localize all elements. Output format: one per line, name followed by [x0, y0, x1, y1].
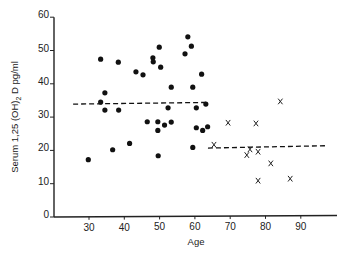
cross-marker [256, 178, 260, 184]
dot-marker [190, 145, 195, 150]
axes: 010203040506030405060708090 [38, 9, 337, 233]
y-tick-label: 30 [38, 109, 50, 120]
cross-marker [269, 161, 273, 167]
cross-marker [245, 152, 249, 158]
dot-marker [102, 108, 107, 113]
dot-marker [98, 57, 103, 62]
y-axis-title-prefix: Serum 1,25 (OH) [9, 100, 20, 172]
mean-lines [73, 102, 325, 148]
dot-marker [155, 128, 160, 133]
dot-marker [116, 60, 121, 65]
dot-marker [140, 72, 145, 77]
cross-marker [288, 176, 292, 182]
cross-marker [226, 120, 230, 126]
x-tick-label: 30 [83, 222, 95, 233]
dot-marker [116, 108, 121, 113]
dot-marker [203, 102, 208, 107]
cross-marker [212, 142, 216, 148]
y-tick-label: 60 [38, 9, 50, 20]
cross-marker [278, 99, 282, 105]
cross-marker [256, 149, 260, 155]
y-tick-label: 20 [38, 142, 50, 153]
dot-marker [189, 44, 194, 49]
dot-marker [185, 34, 190, 39]
dot-marker [190, 85, 195, 90]
y-axis-title: Serum 1,25 (OH)2 D pg/ml [9, 61, 22, 173]
cross-marker [254, 121, 258, 127]
dot-marker [162, 122, 167, 127]
dot-marker [169, 85, 174, 90]
x-tick-label: 70 [225, 221, 237, 232]
dot-marker [155, 119, 160, 124]
dot-marker [158, 65, 163, 70]
y-tick-label: 40 [38, 76, 50, 87]
x-tick-label: 50 [154, 221, 166, 232]
data-points [86, 34, 293, 183]
dot-marker [200, 128, 205, 133]
dot-marker [194, 125, 199, 130]
dot-marker [110, 147, 115, 152]
scatter-chart: 010203040506030405060708090 Age Serum 1,… [0, 0, 358, 262]
dot-marker [127, 141, 132, 146]
dot-marker [102, 90, 107, 95]
x-axis-line [54, 216, 337, 218]
dot-marker [182, 51, 187, 56]
dot-marker [156, 153, 161, 158]
dot-marker [151, 59, 156, 64]
dot-marker [194, 105, 199, 110]
dot-marker [157, 45, 162, 50]
dot-marker [145, 119, 150, 124]
x-tick-label: 40 [119, 222, 131, 233]
x-tick-label: 60 [189, 221, 201, 232]
y-tick-label: 50 [38, 43, 50, 54]
dot-marker [98, 100, 103, 105]
dot-marker [86, 157, 91, 162]
y-tick-label: 0 [43, 209, 49, 220]
dot-marker [205, 124, 210, 129]
x-tick-label: 90 [295, 221, 307, 232]
x-axis-title: Age [188, 236, 205, 247]
mean-group-2-line [208, 146, 325, 148]
dot-marker [133, 69, 138, 74]
y-tick-label: 10 [38, 176, 50, 187]
x-tick-label: 80 [260, 221, 272, 232]
dot-marker [199, 72, 204, 77]
dot-marker [169, 119, 174, 124]
y-axis-title-suffix: D pg/ml [9, 61, 20, 96]
mean-group-1-line [73, 102, 207, 104]
dot-marker [165, 105, 170, 110]
